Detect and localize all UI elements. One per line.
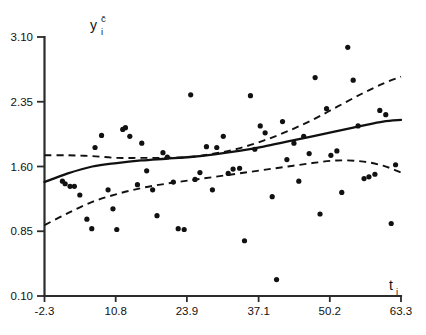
- data-point: [252, 147, 257, 152]
- data-point: [274, 277, 279, 282]
- data-point: [139, 141, 144, 146]
- x-tick-label: 37.1: [247, 305, 269, 317]
- data-point: [324, 106, 329, 111]
- data-point: [127, 134, 132, 139]
- data-point: [176, 226, 181, 231]
- data-point: [135, 182, 140, 187]
- data-point: [160, 150, 165, 155]
- data-point: [296, 179, 301, 184]
- data-point: [230, 166, 235, 171]
- data-point: [263, 130, 268, 135]
- data-point: [366, 174, 371, 179]
- data-point: [345, 45, 350, 50]
- x-tick-label: 50.2: [319, 305, 341, 317]
- data-point: [339, 190, 344, 195]
- data-point: [105, 187, 110, 192]
- y-axis-title-base: y: [90, 17, 97, 33]
- data-point: [63, 181, 68, 186]
- data-point: [197, 170, 202, 175]
- data-point: [221, 134, 226, 139]
- x-tick-label: -2.3: [35, 305, 55, 317]
- data-point: [291, 141, 296, 146]
- x-tick-label: 10.8: [104, 305, 126, 317]
- data-point: [258, 123, 263, 128]
- data-point: [313, 75, 318, 80]
- data-point: [210, 187, 215, 192]
- data-point: [123, 125, 128, 130]
- data-point: [204, 144, 209, 149]
- data-point: [214, 145, 219, 150]
- x-tick-label: 23.9: [176, 305, 198, 317]
- plot-background: [0, 0, 426, 335]
- data-point: [144, 168, 149, 173]
- scatter-plot: 0.100.851.602.353.10 -2.310.823.937.150.…: [0, 0, 426, 335]
- data-point: [355, 123, 360, 128]
- data-point: [351, 78, 356, 83]
- data-point: [114, 227, 119, 232]
- data-point: [237, 166, 242, 171]
- data-point: [242, 238, 247, 243]
- data-point: [307, 151, 312, 156]
- data-point: [270, 194, 275, 199]
- data-point: [150, 187, 155, 192]
- chart-figure: 0.100.851.602.353.10 -2.310.823.937.150.…: [0, 0, 426, 335]
- data-point: [110, 206, 115, 211]
- data-point: [99, 133, 104, 138]
- data-point: [383, 112, 388, 117]
- x-axis-title-subscript: i: [396, 286, 398, 297]
- data-point: [393, 162, 398, 167]
- data-point: [226, 171, 231, 176]
- y-tick-label: 0.85: [11, 225, 33, 237]
- y-axis-title-superscript: c̄: [101, 13, 106, 24]
- data-point: [328, 153, 333, 158]
- data-point: [188, 92, 193, 97]
- data-point: [77, 192, 82, 197]
- data-point: [280, 119, 285, 124]
- data-point: [192, 177, 197, 182]
- data-point: [72, 184, 77, 189]
- data-point: [334, 148, 339, 153]
- y-axis-title-subscript: i: [101, 26, 103, 37]
- y-tick-label: 1.60: [11, 161, 33, 173]
- data-point: [171, 179, 176, 184]
- x-axis-title-base: t: [389, 277, 393, 293]
- data-point: [92, 145, 97, 150]
- data-point: [248, 93, 253, 98]
- data-point: [377, 108, 382, 113]
- y-tick-label: 3.10: [11, 31, 33, 43]
- data-point: [389, 221, 394, 226]
- y-tick-label: 0.10: [11, 290, 33, 302]
- data-point: [317, 211, 322, 216]
- data-point: [165, 154, 170, 159]
- data-point: [89, 226, 94, 231]
- data-point: [182, 227, 187, 232]
- data-point: [84, 217, 89, 222]
- y-tick-label: 2.35: [11, 96, 33, 108]
- data-point: [284, 157, 289, 162]
- data-point: [372, 172, 377, 177]
- data-point: [361, 176, 366, 181]
- data-point: [301, 134, 306, 139]
- x-tick-label: 63.3: [390, 305, 412, 317]
- data-point: [154, 213, 159, 218]
